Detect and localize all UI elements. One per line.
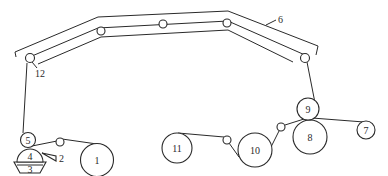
conveyor-roller-3 <box>223 19 231 27</box>
label-2: 2 <box>59 153 64 164</box>
process-diagram: 6 12 1 3 4 2 5 11 10 8 9 7 <box>0 0 388 176</box>
label-3: 3 <box>28 164 33 175</box>
roller-12 <box>26 54 35 63</box>
label-8: 8 <box>308 132 313 143</box>
web-roller-to-1 <box>62 139 97 144</box>
idler-roller-left <box>56 138 64 146</box>
web-9-to-7 <box>312 118 364 122</box>
label-9: 9 <box>306 104 311 115</box>
label-1: 1 <box>95 155 100 166</box>
conveyor-inner-line <box>38 30 293 64</box>
overhead-conveyor: 6 <box>15 11 318 64</box>
label-12: 12 <box>35 68 45 79</box>
right-guide-roller <box>301 54 310 63</box>
label-10: 10 <box>250 145 260 156</box>
label-7: 7 <box>364 125 369 136</box>
web-10-to-roller <box>271 131 279 147</box>
label-6: 6 <box>278 14 283 25</box>
idler-roller-right <box>277 123 285 131</box>
conveyor-roller-2 <box>159 20 167 28</box>
label-11: 11 <box>172 143 182 154</box>
conveyor-middle-line <box>32 21 305 56</box>
conveyor-roller-1 <box>97 27 105 35</box>
label-6-leader <box>266 20 276 25</box>
web-left-drop <box>23 63 27 133</box>
label-4: 4 <box>28 151 33 162</box>
label-5: 5 <box>26 135 31 146</box>
conveyor-outer-line <box>15 11 318 57</box>
wedge-2 <box>42 153 56 161</box>
idler-roller-middle <box>223 136 231 144</box>
